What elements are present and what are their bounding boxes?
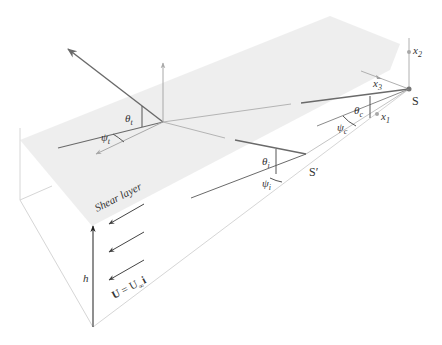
- x1-axis-marker-icon: [375, 112, 379, 116]
- flow-arrow-2: [109, 232, 144, 252]
- x2-axis-marker-icon: [407, 50, 411, 54]
- image-ray-dark: [235, 140, 306, 154]
- label-theta-i: θi: [262, 155, 270, 170]
- psi-i-arc: [270, 178, 282, 182]
- flow-arrow-3: [109, 260, 144, 280]
- label-x2: x2: [412, 44, 422, 59]
- label-freestream-velocity: U = U∞i: [109, 273, 148, 303]
- label-x3: x3: [372, 77, 382, 92]
- psi-c-arc: [343, 116, 356, 126]
- label-x1: x1: [380, 110, 390, 125]
- label-image-source: S′: [309, 165, 319, 179]
- label-theta-c: θc: [354, 104, 363, 119]
- label-source-s: S: [412, 94, 419, 108]
- label-psi-i: ψi: [262, 177, 271, 192]
- shear-layer-geometry-diagram: S S′ x2 x3 x1 θc ψc θi ψi θt ψt Shear la…: [0, 0, 442, 345]
- label-height: h: [83, 272, 89, 284]
